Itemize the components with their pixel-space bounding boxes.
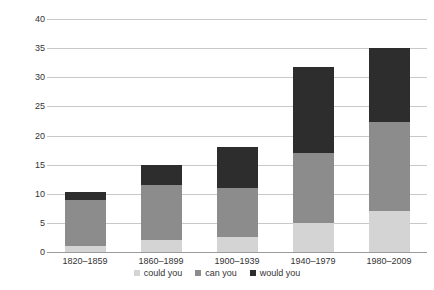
legend-label: could you bbox=[144, 268, 183, 278]
x-tick-label: 1940–1979 bbox=[290, 256, 335, 266]
legend-label: can you bbox=[205, 268, 237, 278]
y-tick-label: 0 bbox=[5, 247, 45, 257]
bar-segment bbox=[141, 185, 182, 240]
bar-series-container bbox=[47, 19, 427, 252]
x-tick-label: 1860–1899 bbox=[138, 256, 183, 266]
bar-segment bbox=[293, 153, 334, 223]
y-tick-label: 15 bbox=[5, 160, 45, 170]
bar-segment bbox=[141, 165, 182, 185]
bar-segment bbox=[293, 67, 334, 153]
x-tick-label: 1820–1859 bbox=[62, 256, 107, 266]
legend-swatch-icon bbox=[195, 270, 201, 276]
legend-label: would you bbox=[260, 268, 301, 278]
bar-segment bbox=[369, 122, 410, 211]
bar-segment bbox=[369, 48, 410, 122]
chart-legend: could youcan youwould you bbox=[0, 268, 434, 278]
legend-swatch-icon bbox=[134, 270, 140, 276]
bar-segment bbox=[369, 211, 410, 252]
bar-segment bbox=[65, 200, 106, 247]
x-tick-label: 1900–1939 bbox=[214, 256, 259, 266]
legend-item: can you bbox=[195, 268, 237, 278]
bar-segment bbox=[65, 246, 106, 252]
bar-group bbox=[217, 147, 258, 252]
bar-segment bbox=[141, 240, 182, 252]
legend-item: would you bbox=[250, 268, 301, 278]
legend-item: could you bbox=[134, 268, 183, 278]
y-tick-label: 25 bbox=[5, 101, 45, 111]
bar-segment bbox=[217, 147, 258, 188]
bar-segment bbox=[293, 223, 334, 252]
bar-group bbox=[293, 67, 334, 252]
bar-group bbox=[65, 192, 106, 252]
y-tick-label: 40 bbox=[5, 14, 45, 24]
y-tick-label: 35 bbox=[5, 43, 45, 53]
y-tick-label: 10 bbox=[5, 189, 45, 199]
stacked-bar-chart: 4035302520151050 1820–18591860–18991900–… bbox=[0, 0, 434, 290]
bar-group bbox=[141, 165, 182, 252]
y-tick-label: 20 bbox=[5, 131, 45, 141]
bar-group bbox=[369, 48, 410, 252]
legend-swatch-icon bbox=[250, 270, 256, 276]
bar-segment bbox=[65, 192, 106, 200]
bar-segment bbox=[217, 188, 258, 238]
y-tick-label: 30 bbox=[5, 72, 45, 82]
y-tick-label: 5 bbox=[5, 218, 45, 228]
gridline-0 bbox=[47, 252, 427, 253]
plot-area bbox=[47, 19, 427, 252]
bar-segment bbox=[217, 237, 258, 252]
x-tick-label: 1980–2009 bbox=[366, 256, 411, 266]
